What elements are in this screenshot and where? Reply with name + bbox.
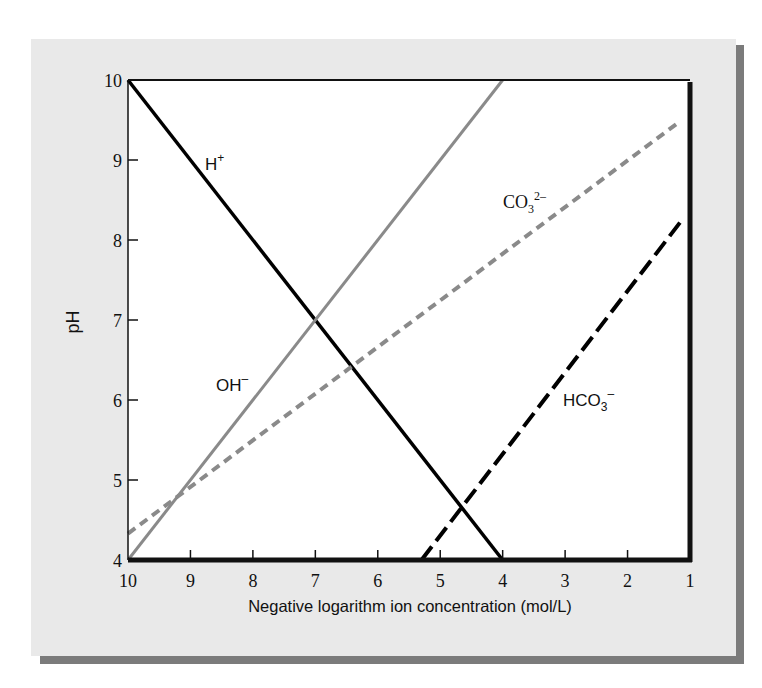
x-axis-title: Negative logarithm ion concentration (mo… bbox=[248, 597, 572, 615]
x-tick-label: 5 bbox=[436, 571, 445, 591]
y-tick-label: 7 bbox=[113, 311, 122, 331]
y-tick-label: 9 bbox=[113, 151, 122, 171]
y-tick-label: 8 bbox=[113, 231, 122, 251]
series-label-hco3: HCO3– bbox=[563, 387, 614, 414]
x-tick-label: 6 bbox=[373, 571, 382, 591]
x-tick-label: 8 bbox=[248, 571, 257, 591]
x-tick-label: 4 bbox=[498, 571, 507, 591]
y-axis-title: pH bbox=[63, 310, 83, 333]
y-tick-label: 4 bbox=[113, 551, 122, 571]
x-tick-label: 1 bbox=[686, 571, 695, 591]
x-tick-label: 2 bbox=[623, 571, 632, 591]
chart: 45678910 10987654321 Negative logarithm … bbox=[0, 0, 762, 688]
x-tick-label: 10 bbox=[119, 571, 137, 591]
y-tick-label: 5 bbox=[113, 471, 122, 491]
x-tick-label: 3 bbox=[561, 571, 570, 591]
y-tick-label: 6 bbox=[113, 391, 122, 411]
y-tick-label: 10 bbox=[104, 71, 122, 91]
x-tick-label: 7 bbox=[311, 571, 320, 591]
x-tick-label: 9 bbox=[186, 571, 195, 591]
